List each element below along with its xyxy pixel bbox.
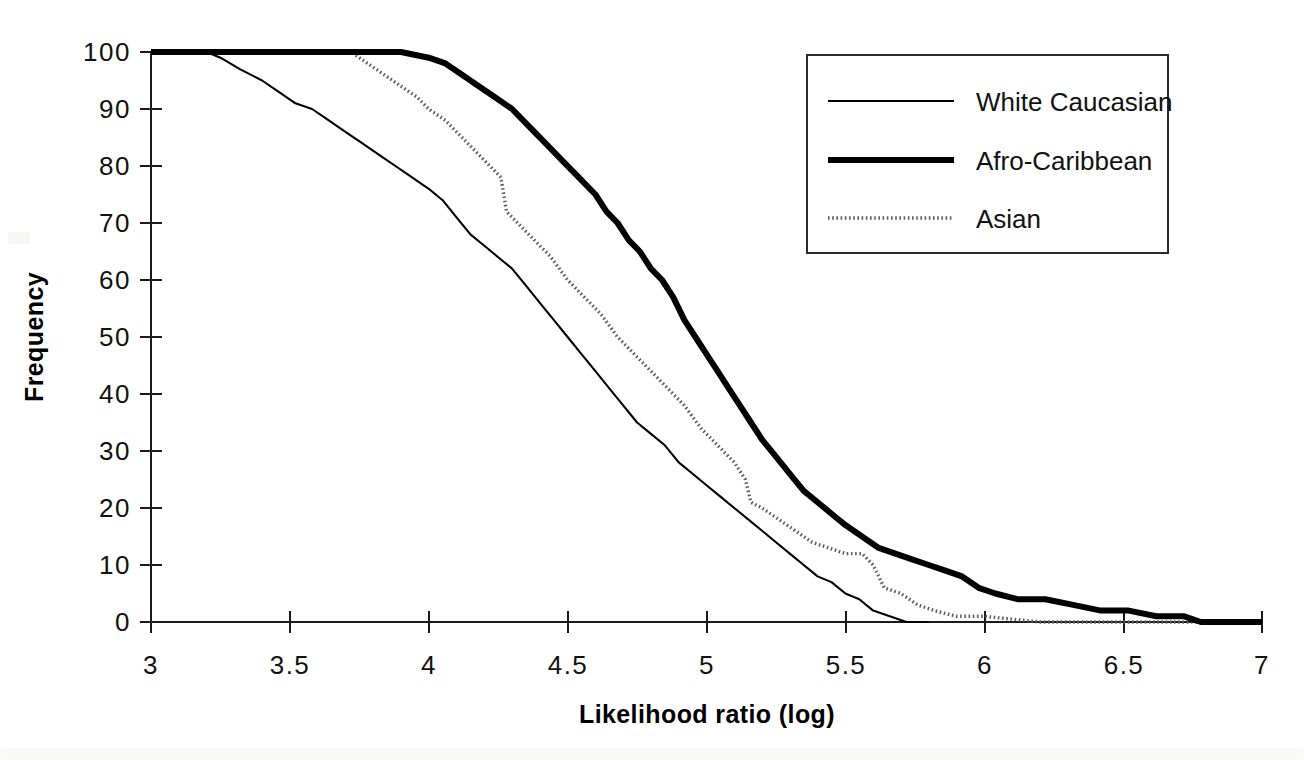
legend: White Caucasian Afro-Caribbean Asian xyxy=(807,55,1173,253)
y-tick-label-90: 90 xyxy=(99,94,131,124)
y-tick-label-0: 0 xyxy=(115,607,131,637)
chart-figure: 0 10 20 30 40 50 60 70 80 90 100 3 3.5 xyxy=(0,0,1304,760)
x-tick-label-3: 3 xyxy=(143,650,159,680)
chart-canvas: 0 10 20 30 40 50 60 70 80 90 100 3 3.5 xyxy=(0,0,1304,760)
x-tick-label-4: 4 xyxy=(421,650,437,680)
scan-artifact-left xyxy=(8,232,30,244)
x-tick-label-7: 7 xyxy=(1254,650,1270,680)
x-axis-title: Likelihood ratio (log) xyxy=(579,700,835,728)
y-tick-label-60: 60 xyxy=(99,265,131,295)
x-tick-label-6: 6 xyxy=(977,650,993,680)
y-tick-label-20: 20 xyxy=(99,493,131,523)
x-tick-label-3.5: 3.5 xyxy=(270,650,311,680)
legend-label-asian: Asian xyxy=(976,204,1041,234)
y-tick-label-40: 40 xyxy=(99,379,131,409)
x-tick-label-6.5: 6.5 xyxy=(1104,650,1145,680)
x-tick-label-5.5: 5.5 xyxy=(826,650,867,680)
y-tick-label-30: 30 xyxy=(99,436,131,466)
y-tick-label-80: 80 xyxy=(99,151,131,181)
x-tick-label-5: 5 xyxy=(699,650,715,680)
scan-artifact-bottom xyxy=(0,748,1304,760)
y-tick-label-100: 100 xyxy=(83,37,131,67)
y-tick-label-70: 70 xyxy=(99,208,131,238)
x-axis-tick-labels: 3 3.5 4 4.5 5 5.5 6 6.5 7 xyxy=(143,650,1270,680)
x-tick-label-4.5: 4.5 xyxy=(548,650,589,680)
y-tick-label-50: 50 xyxy=(99,322,131,352)
legend-label-white-caucasian: White Caucasian xyxy=(976,87,1173,117)
y-axis-title: Frequency xyxy=(20,272,48,402)
y-tick-label-10: 10 xyxy=(99,550,131,580)
y-axis-tick-labels: 0 10 20 30 40 50 60 70 80 90 100 xyxy=(83,37,131,637)
legend-label-afro-caribbean: Afro-Caribbean xyxy=(976,146,1152,176)
